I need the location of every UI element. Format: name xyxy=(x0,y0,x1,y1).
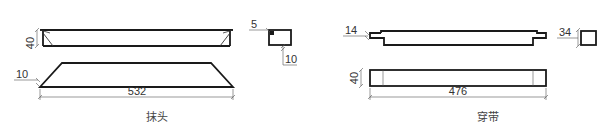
chuan-dai-section: 34 xyxy=(557,26,596,48)
chuan-dai-length-label: 476 xyxy=(449,85,467,97)
mo-tou-bevel-label: 10 xyxy=(16,68,28,80)
chuan-dai-length-dimension: 476 xyxy=(368,85,548,100)
drawing-canvas: 40 10 532 5 xyxy=(0,0,614,133)
mo-tou-elevation xyxy=(40,30,233,46)
chuan-dai-plan xyxy=(370,70,546,86)
chuan-dai-profile xyxy=(370,31,546,45)
chuan-dai-caption: 穿带 xyxy=(477,110,499,124)
chuan-dai-tenon-dimension: 14 xyxy=(343,24,369,40)
mo-tou-height-label: 40 xyxy=(24,37,36,49)
chuan-dai-height-label: 40 xyxy=(348,72,360,84)
mo-tou-section-small-label: 5 xyxy=(251,18,257,30)
mo-tou-bevel-dimension: 10 xyxy=(14,68,40,87)
chuan-dai-height-dimension: 40 xyxy=(348,68,363,88)
chuan-dai-tenon-label: 14 xyxy=(345,24,357,36)
mo-tou-trapezoid xyxy=(40,63,233,87)
mo-tou-section-depth-label: 10 xyxy=(285,53,297,65)
mo-tou-height-dimension: 40 xyxy=(24,28,39,49)
mo-tou-caption: 抹头 xyxy=(146,111,168,124)
mo-tou-length-label: 532 xyxy=(128,85,146,97)
mo-tou-figure: 40 10 532 5 xyxy=(14,18,297,124)
mo-tou-section: 5 10 xyxy=(249,18,297,65)
chuan-dai-section-label: 34 xyxy=(559,26,571,38)
chuan-dai-figure: 14 34 40 xyxy=(343,24,596,124)
